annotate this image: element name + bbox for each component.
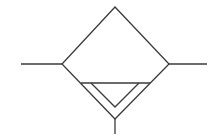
filter-drain-symbol [0,0,219,137]
filter-diamond [62,7,169,119]
drain-triangle [91,83,139,107]
